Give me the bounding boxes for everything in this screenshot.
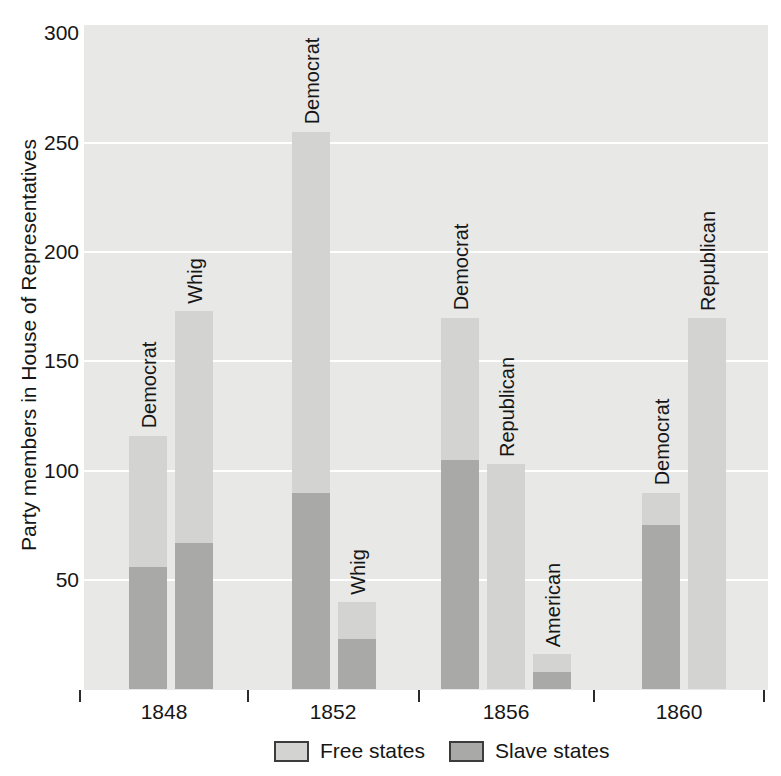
- x-tick-mark: [79, 690, 81, 702]
- bar-segment-slave-states: [292, 493, 330, 690]
- bar-segment-free-states: [129, 436, 167, 567]
- x-tick-mark: [593, 690, 595, 702]
- x-tick-label: 1852: [288, 701, 378, 723]
- bar-party-label: Whig: [347, 549, 369, 595]
- bar-segment-slave-states: [338, 639, 376, 689]
- x-tick-mark: [763, 690, 765, 702]
- y-tick-label: 100: [0, 460, 79, 482]
- gridline: [84, 251, 768, 253]
- bar-segment-slave-states: [441, 460, 479, 690]
- y-tick-label: 150: [0, 350, 79, 372]
- y-tick-label: 200: [0, 241, 79, 263]
- free-states-swatch-icon: [274, 741, 309, 762]
- legend: Free states Slave states: [0, 740, 781, 764]
- slave-states-swatch-icon: [449, 741, 484, 762]
- x-tick-mark: [418, 690, 420, 702]
- bar-segment-free-states: [292, 132, 330, 493]
- bar-party-label: Republican: [496, 357, 518, 457]
- y-tick-label: 300: [0, 22, 79, 44]
- bar-party-label: Republican: [697, 210, 719, 310]
- bar-party-label: Democrat: [450, 224, 472, 311]
- bar-segment-slave-states: [533, 672, 571, 690]
- bar-party-label: Democrat: [301, 38, 323, 125]
- stacked-bar-chart: Party members in House of Representative…: [0, 0, 781, 776]
- bar-segment-free-states: [688, 318, 726, 690]
- gridline: [84, 142, 768, 144]
- x-tick-mark: [247, 690, 249, 702]
- legend-label-slave-states: Slave states: [495, 740, 609, 762]
- bar-party-label: Whig: [184, 258, 206, 304]
- y-axis-title: Party members in House of Representative…: [17, 139, 41, 551]
- bar-party-label: Democrat: [138, 342, 160, 429]
- x-tick-label: 1856: [461, 701, 551, 723]
- bar-party-label: American: [542, 563, 564, 647]
- bar-segment-slave-states: [175, 543, 213, 690]
- bar-segment-slave-states: [129, 567, 167, 690]
- legend-item-free-states: Free states: [274, 740, 425, 762]
- bar-segment-free-states: [533, 654, 571, 672]
- y-tick-label: 250: [0, 132, 79, 154]
- bar-segment-free-states: [487, 464, 525, 689]
- x-tick-label: 1848: [119, 701, 209, 723]
- x-tick-label: 1860: [634, 701, 724, 723]
- legend-item-slave-states: Slave states: [449, 740, 609, 762]
- bar-party-label: Democrat: [651, 399, 673, 486]
- bar-segment-free-states: [441, 318, 479, 460]
- bar-segment-free-states: [338, 602, 376, 639]
- bar-segment-free-states: [642, 493, 680, 526]
- y-tick-label: 50: [0, 569, 79, 591]
- legend-label-free-states: Free states: [320, 740, 425, 762]
- bar-segment-free-states: [175, 311, 213, 543]
- bar-segment-slave-states: [642, 525, 680, 689]
